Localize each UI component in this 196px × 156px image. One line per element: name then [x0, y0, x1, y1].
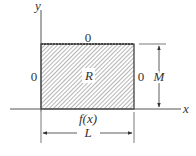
x-axis-label: x — [182, 101, 189, 116]
left-boundary-label: 0 — [31, 69, 38, 84]
l-dimension-label: L — [83, 125, 91, 140]
bottom-boundary-label: f(x) — [79, 111, 97, 126]
y-axis-label: y — [33, 0, 41, 13]
rectangle-region-diagram: y x 0 0 0 R M f(x) L — [0, 0, 196, 156]
top-boundary-label: 0 — [85, 30, 92, 45]
region-label: R — [84, 68, 93, 83]
right-boundary-label: 0 — [138, 69, 145, 84]
m-dimension-label: M — [153, 69, 166, 84]
